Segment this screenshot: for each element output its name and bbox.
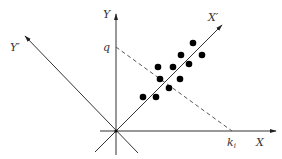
y-prime-axis-label: Y′ (10, 41, 20, 54)
data-point (155, 64, 162, 71)
y-prime-axis (25, 36, 138, 153)
data-point (190, 40, 197, 47)
data-point (140, 94, 147, 101)
data-point (186, 61, 193, 68)
data-point (178, 52, 185, 59)
origin-point (114, 129, 117, 132)
data-point (170, 64, 177, 71)
data-point (199, 52, 206, 59)
pca-rotation-diagram: Y X X′ Y′ q ki (0, 0, 282, 159)
data-point (157, 76, 164, 83)
q-label: q (103, 41, 110, 54)
k-label-subscript: i (234, 142, 236, 150)
x-prime-axis (95, 25, 222, 152)
data-point (177, 76, 184, 83)
data-point (166, 85, 173, 92)
x-axis-label: X (255, 136, 265, 149)
x-prime-axis-label: X′ (207, 11, 219, 24)
y-axis-label: Y (103, 8, 112, 21)
scatter-points (140, 40, 206, 101)
data-point (153, 94, 160, 101)
k-label: ki (227, 136, 236, 150)
projection-dashed-line (116, 47, 232, 131)
